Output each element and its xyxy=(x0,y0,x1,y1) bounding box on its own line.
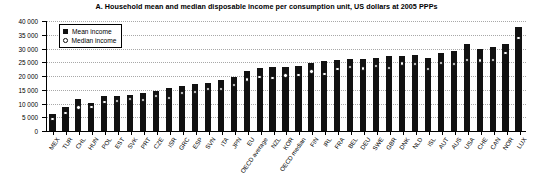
x-axis-label-can: CAN xyxy=(488,136,501,151)
x-axis-label-lux: LUX xyxy=(515,136,528,150)
bar-slot xyxy=(215,21,228,131)
x-axis-tick-mark xyxy=(403,131,404,135)
median-income-marker xyxy=(335,67,339,71)
x-axis-label-che: CHE xyxy=(475,136,488,151)
median-income-marker xyxy=(102,100,106,104)
x-axis-tick-mark xyxy=(481,131,482,135)
mean-income-bar xyxy=(399,56,405,131)
x-axis-tick-mark xyxy=(338,131,339,135)
bar-slot xyxy=(280,21,293,131)
x-axis-tick-mark xyxy=(222,131,223,135)
x-axis-label-aus: AUS xyxy=(449,136,462,150)
x-axis-label-hun: HUN xyxy=(87,136,100,151)
x-axis-tick-mark xyxy=(364,131,365,135)
y-axis: 05 00010 00015 00020 00025 00030 00035 0… xyxy=(0,21,46,131)
median-income-marker xyxy=(322,72,326,76)
x-axis-label-prt: PRT xyxy=(139,136,152,150)
x-axis-tick-mark xyxy=(53,131,54,135)
x-axis-label-grc: GRC xyxy=(177,136,191,151)
median-income-marker xyxy=(89,105,93,109)
x-axis-label-svk: SVK xyxy=(126,136,139,150)
x-axis-tick-mark xyxy=(79,131,80,135)
x-axis-label-nzl: NZL xyxy=(269,136,281,150)
x-axis-tick-mark xyxy=(377,131,378,135)
legend-item-median: Median income xyxy=(63,37,116,44)
x-axis-labels: MEXTURCHLHUNPOLESTSVKPRTCZEISRGRCESPSVNI… xyxy=(46,136,525,184)
median-income-marker xyxy=(257,75,261,79)
y-axis-tick-label: 5 000 xyxy=(22,114,38,121)
x-axis-tick-mark xyxy=(455,131,456,135)
mean-income-bar xyxy=(166,88,172,131)
x-axis-tick-mark xyxy=(170,131,171,135)
y-axis-tick-label: 30 000 xyxy=(18,45,38,52)
x-axis-tick-mark xyxy=(442,131,443,135)
bar-slot xyxy=(176,21,189,131)
bar-slot xyxy=(319,21,332,131)
x-axis-label-aut: AUT xyxy=(437,136,450,150)
legend-label-median: Median income xyxy=(72,37,117,44)
mean-income-swatch-icon xyxy=(63,29,68,34)
x-axis-tick-mark xyxy=(131,131,132,135)
bar-slot xyxy=(151,21,164,131)
mean-income-bar xyxy=(75,99,81,131)
x-axis-label-ita: ITA xyxy=(219,136,230,148)
bar-slot xyxy=(448,21,461,131)
y-axis-tick-label: 10 000 xyxy=(18,100,38,107)
chart-legend: Mean income Median income xyxy=(59,24,122,48)
x-axis-tick-mark xyxy=(390,131,391,135)
x-axis-label-esp: ESP xyxy=(191,136,204,150)
x-axis-tick-mark xyxy=(118,131,119,135)
bar-slot xyxy=(384,21,397,131)
x-axis-label-bel: BEL xyxy=(347,136,359,150)
x-axis-tick-mark xyxy=(261,131,262,135)
x-axis-label-fin: FIN xyxy=(309,136,320,148)
x-axis-label-usa: USA xyxy=(462,136,475,150)
bar-slot xyxy=(138,21,151,131)
x-axis-tick-mark xyxy=(144,131,145,135)
bar-slot xyxy=(267,21,280,131)
bar-slot xyxy=(358,21,371,131)
median-income-marker xyxy=(309,69,313,73)
y-axis-tick-label: 35 000 xyxy=(18,31,38,38)
mean-income-bar xyxy=(438,53,444,131)
x-axis-tick-mark xyxy=(183,131,184,135)
bar-slot xyxy=(306,21,319,131)
x-axis-tick-mark xyxy=(494,131,495,135)
x-axis-label-eu: EU xyxy=(245,136,256,147)
median-income-marker xyxy=(76,105,80,109)
x-axis-tick-mark xyxy=(235,131,236,135)
x-axis-label-svn: SVN xyxy=(204,136,217,150)
x-axis-label-nor: NOR xyxy=(501,136,515,151)
x-axis-tick-mark xyxy=(507,131,508,135)
x-axis-tick-mark xyxy=(105,131,106,135)
bar-slot xyxy=(474,21,487,131)
y-axis-tick-label: 40 000 xyxy=(18,18,38,25)
x-axis-label-gbr: GBR xyxy=(384,136,397,151)
y-axis-tick-label: 20 000 xyxy=(18,73,38,80)
bar-slot xyxy=(371,21,384,131)
x-axis-label-cze: CZE xyxy=(152,136,165,150)
median-income-marker xyxy=(283,73,287,77)
bar-slot xyxy=(435,21,448,131)
x-axis-tick-mark xyxy=(196,131,197,135)
mean-income-bar xyxy=(502,44,508,131)
x-axis-tick-mark xyxy=(520,131,521,135)
bar-slot xyxy=(345,21,358,131)
mean-income-bar xyxy=(373,58,379,131)
x-axis-tick-mark xyxy=(325,131,326,135)
y-axis-tick-label: 0 xyxy=(34,128,38,135)
y-axis-tick-label: 15 000 xyxy=(18,86,38,93)
median-income-marker xyxy=(245,77,249,81)
mean-income-bar xyxy=(412,55,418,131)
x-axis-label-chl: CHL xyxy=(74,136,87,150)
legend-label-mean: Mean income xyxy=(72,28,112,35)
x-axis-tick-mark xyxy=(92,131,93,135)
mean-income-bar xyxy=(515,27,521,131)
median-income-marker xyxy=(516,36,520,40)
median-income-marker xyxy=(491,58,495,62)
chart-title: A. Household mean and median disposable … xyxy=(0,2,533,11)
median-income-swatch-icon xyxy=(63,38,68,43)
bar-slot xyxy=(422,21,435,131)
bar-slot xyxy=(513,21,526,131)
x-axis-label-dnk: DNK xyxy=(397,136,410,151)
